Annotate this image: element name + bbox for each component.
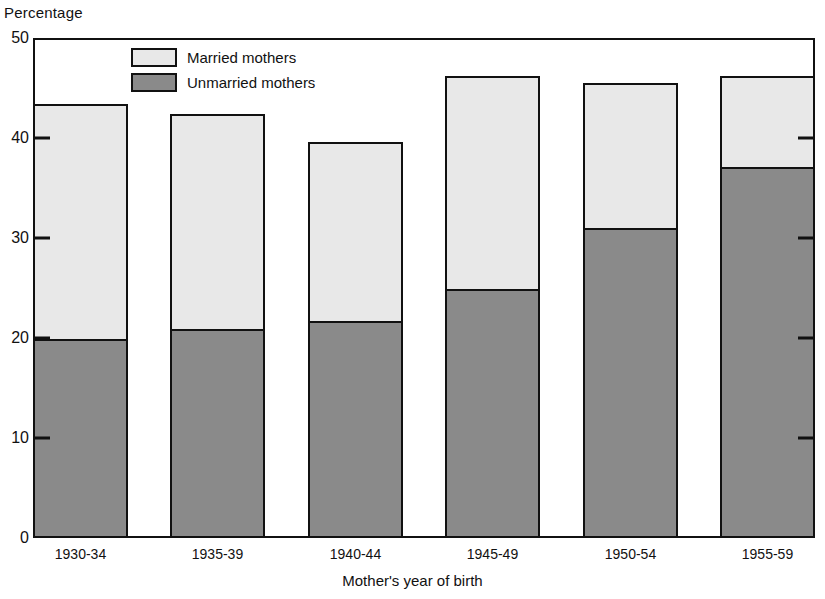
y-tick-mark-left xyxy=(35,137,50,140)
chart-legend: Married mothers Unmarried mothers xyxy=(127,46,319,94)
stacked-bar-chart: Percentage 01020304050 Married mothers U… xyxy=(0,0,825,599)
bar-segment-married xyxy=(722,78,813,167)
bar-segment-married xyxy=(172,116,263,329)
legend-swatch-unmarried xyxy=(131,73,177,92)
x-tick-label: 1955-59 xyxy=(720,546,815,562)
legend-label-unmarried: Unmarried mothers xyxy=(187,74,315,91)
bar-1955-59 xyxy=(720,76,815,538)
legend-label-married: Married mothers xyxy=(187,49,296,66)
bar-segment-married xyxy=(447,78,538,289)
bar-segment-unmarried xyxy=(310,321,401,536)
y-tick-mark-right xyxy=(798,337,813,340)
x-tick-label: 1935-39 xyxy=(170,546,265,562)
legend-swatch-married xyxy=(131,48,177,67)
bar-1935-39 xyxy=(170,114,265,538)
bar-segment-unmarried xyxy=(585,228,676,536)
y-tick-mark-right xyxy=(798,437,813,440)
bars-layer xyxy=(0,0,825,599)
x-tick-label: 1945-49 xyxy=(445,546,540,562)
bar-segment-unmarried xyxy=(447,289,538,536)
x-tick-label: 1950-54 xyxy=(583,546,678,562)
bar-segment-married xyxy=(585,85,676,228)
y-tick-mark-left xyxy=(35,237,50,240)
bar-segment-married xyxy=(310,144,401,321)
x-axis-title: Mother's year of birth xyxy=(0,572,825,589)
y-tick-mark-right xyxy=(798,237,813,240)
bar-1950-54 xyxy=(583,83,678,538)
y-tick-mark-left xyxy=(35,337,50,340)
bar-1930-34 xyxy=(33,104,128,538)
legend-item-unmarried: Unmarried mothers xyxy=(131,73,315,92)
bar-1940-44 xyxy=(308,142,403,538)
bar-segment-married xyxy=(35,106,126,339)
x-tick-label: 1940-44 xyxy=(308,546,403,562)
legend-item-married: Married mothers xyxy=(131,48,315,67)
x-tick-label: 1930-34 xyxy=(33,546,128,562)
y-tick-mark-right xyxy=(798,137,813,140)
bar-segment-unmarried xyxy=(172,329,263,536)
bar-segment-unmarried xyxy=(722,167,813,536)
bar-1945-49 xyxy=(445,76,540,538)
y-tick-mark-left xyxy=(35,437,50,440)
